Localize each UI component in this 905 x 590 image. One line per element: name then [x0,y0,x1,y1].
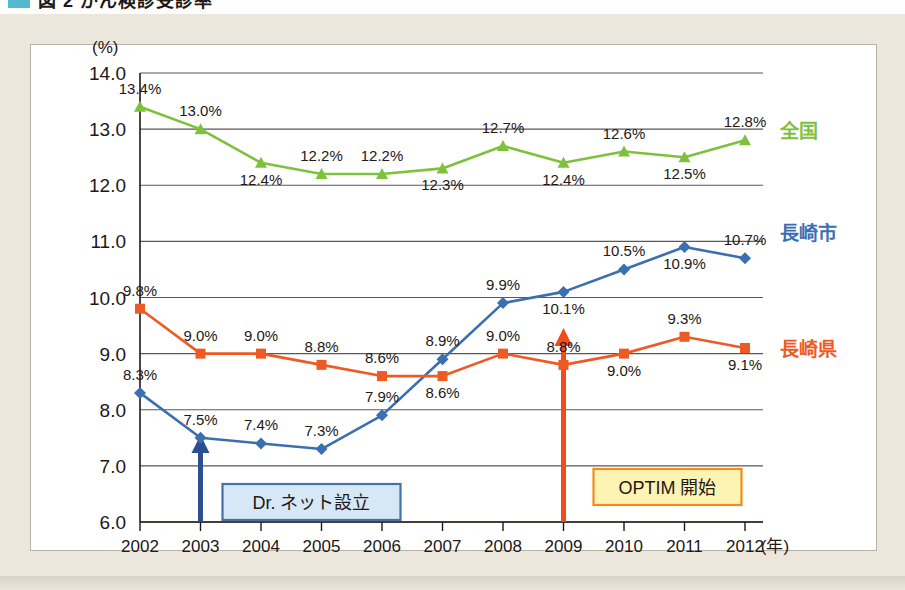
legend-label-全国: 全国 [779,120,818,142]
ytick-label: 13.0 [89,119,126,140]
data-label: 7.5% [183,411,217,428]
data-point-triangle [739,134,751,145]
data-label: 8.8% [304,338,338,355]
data-label: 9.8% [123,282,157,299]
series-1 [134,101,751,179]
data-point-triangle [497,140,509,151]
annotation-label: OPTIM 開始 [619,478,717,498]
data-label: 7.3% [304,422,338,439]
data-label-layer: 13.4%13.0%12.4%12.2%12.2%12.3%12.7%12.4%… [119,80,767,439]
panel-shadow [0,576,905,590]
data-label: 13.4% [119,80,162,97]
data-label: 12.4% [240,171,283,188]
data-label: 9.0% [607,362,641,379]
xtick-label: 2010 [605,537,643,556]
legend-label-長崎市: 長崎市 [780,222,837,244]
data-point-square [498,349,508,359]
data-label: 8.3% [123,366,157,383]
data-label: 12.7% [482,119,525,136]
data-point-square [680,332,690,342]
data-point-square [256,349,266,359]
data-label: 12.4% [542,171,585,188]
xtick-label: 2008 [484,537,522,556]
page-title: 図 2 がん検診受診率 [38,0,213,12]
data-label: 13.0% [179,102,222,119]
series-layer [134,101,751,455]
data-label: 7.4% [244,416,278,433]
data-label: 12.2% [361,147,404,164]
ytick-label: 7.0 [100,456,126,477]
title-swatch-icon [8,0,30,8]
data-label: 12.2% [300,147,343,164]
data-label: 8.9% [425,332,459,349]
data-label: 10.1% [542,300,585,317]
ytick-label: 11.0 [90,231,126,252]
xtick-label: 2006 [363,537,401,556]
data-label: 8.6% [365,349,399,366]
xtick-label: 2004 [242,537,280,556]
data-point-square [377,371,387,381]
xtick-label: 2003 [182,537,220,556]
chart-panel: 6.07.08.09.010.011.012.013.014.0(%)20022… [0,14,905,576]
legend-label-長崎県: 長崎県 [780,338,837,360]
x-axis-unit-label: (年) [761,537,789,556]
data-label: 8.8% [546,338,580,355]
data-label: 12.5% [663,165,706,182]
ytick-label: 12.0 [89,175,126,196]
page-title-strip: 図 2 がん検診受診率 [0,0,905,14]
ytick-label: 6.0 [100,512,126,533]
data-label: 9.0% [244,327,278,344]
data-point-square [135,304,145,314]
data-point-diamond [255,437,267,449]
xtick-label: 2009 [545,537,583,556]
data-point-square [438,371,448,381]
xtick-label: 2012 [726,537,764,556]
data-label: 12.8% [724,113,767,130]
data-point-diamond [558,286,570,298]
xtick-label: 2002 [121,537,159,556]
data-point-diamond [618,263,630,275]
data-point-square [196,349,206,359]
data-point-diamond [316,443,328,455]
data-point-square [317,360,327,370]
data-label: 9.9% [486,276,520,293]
data-label: 9.0% [486,327,520,344]
xtick-label: 2007 [424,537,462,556]
ytick-label: 9.0 [100,344,126,365]
data-point-diamond [739,252,751,264]
grid-layer [140,73,763,522]
data-label: 12.6% [603,125,646,142]
y-axis-unit-label: (%) [92,38,118,57]
line-chart: 6.07.08.09.010.011.012.013.014.0(%)20022… [0,14,905,576]
legend-layer: 全国長崎市長崎県 [779,120,837,360]
xtick-label: 2005 [303,537,341,556]
data-point-triangle [134,101,146,112]
data-label: 9.0% [183,327,217,344]
data-label: 9.1% [728,356,762,373]
annotation-1: Dr. ネット設立 [192,435,401,522]
xtick-label: 2011 [666,537,703,556]
data-point-diamond [679,241,691,253]
annotation-label: Dr. ネット設立 [252,493,370,513]
data-point-square [559,360,569,370]
data-label: 10.5% [603,242,646,259]
data-point-square [619,349,629,359]
data-label: 9.3% [667,310,701,327]
data-point-square [740,343,750,353]
data-label: 7.9% [365,388,399,405]
annotation-2: OPTIM 開始 [555,328,742,522]
ytick-label: 10.0 [89,288,126,309]
data-label: 10.7% [724,231,767,248]
data-label: 10.9% [663,255,706,272]
ytick-label: 8.0 [100,400,126,421]
data-label: 8.6% [425,384,459,401]
data-label: 12.3% [421,176,464,193]
